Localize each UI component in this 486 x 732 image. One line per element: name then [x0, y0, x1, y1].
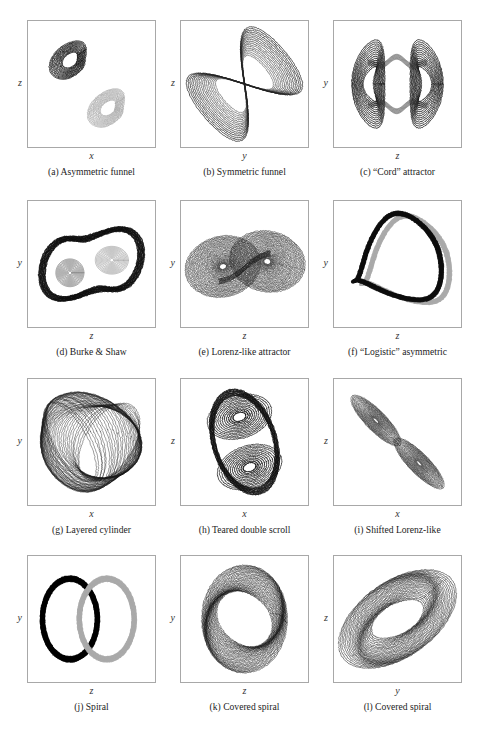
- axis-label-x-a: x: [27, 150, 156, 161]
- plot-panel-d: [27, 200, 156, 328]
- attractor-trace-f: [334, 201, 461, 327]
- attractor-trace-i: [334, 379, 461, 505]
- axis-label-y-k: y: [161, 612, 175, 623]
- axis-label-x-k: z: [180, 685, 309, 696]
- attractor-trace-j: [28, 556, 155, 682]
- plot-panel-b: [180, 20, 309, 148]
- panel-caption-c: (c) “Cord” attractor: [311, 166, 484, 177]
- axis-label-x-d: z: [27, 330, 156, 341]
- panel-caption-j: (j) Spiral: [5, 701, 178, 712]
- axis-label-x-l: y: [333, 685, 462, 696]
- axis-label-x-j: z: [27, 685, 156, 696]
- axis-label-y-d: y: [8, 257, 22, 268]
- plot-panel-g: [27, 378, 156, 506]
- panel-caption-l: (l) Covered spiral: [311, 701, 484, 712]
- plot-panel-j: [27, 555, 156, 683]
- attractor-trace-c: [334, 21, 461, 147]
- plot-panel-c: [333, 20, 462, 148]
- plot-panel-a: [27, 20, 156, 148]
- panel-caption-g: (g) Layered cylinder: [5, 524, 178, 535]
- panel-caption-b: (b) Symmetric funnel: [158, 166, 331, 177]
- plot-panel-i: [333, 378, 462, 506]
- axis-label-y-i: z: [314, 435, 328, 446]
- axis-label-y-e: y: [161, 257, 175, 268]
- axis-label-y-a: z: [8, 77, 22, 88]
- plot-panel-e: [180, 200, 309, 328]
- attractor-trace-k: [181, 556, 308, 682]
- attractor-trace-g: [28, 379, 155, 505]
- axis-label-y-f: y: [314, 257, 328, 268]
- plot-panel-f: [333, 200, 462, 328]
- panel-caption-f: (f) “Logistic” asymmetric: [311, 346, 484, 357]
- attractor-trace-l: [334, 556, 461, 682]
- axis-label-x-b: y: [180, 150, 309, 161]
- attractor-trace-h: [181, 379, 308, 505]
- axis-label-y-l: z: [314, 612, 328, 623]
- plot-panel-l: [333, 555, 462, 683]
- axis-label-y-g: y: [8, 435, 22, 446]
- panel-caption-h: (h) Teared double scroll: [158, 524, 331, 535]
- panel-caption-a: (a) Asymmetric funnel: [5, 166, 178, 177]
- axis-label-x-f: z: [333, 330, 462, 341]
- figure-panel-grid: zx(a) Asymmetric funnelzy(b) Symmetric f…: [0, 0, 486, 732]
- axis-label-y-b: z: [161, 77, 175, 88]
- attractor-trace-b: [181, 21, 308, 147]
- attractor-trace-e: [181, 201, 308, 327]
- plot-panel-h: [180, 378, 309, 506]
- axis-label-x-i: x: [333, 508, 462, 519]
- panel-caption-k: (k) Covered spiral: [158, 701, 331, 712]
- attractor-trace-a: [28, 21, 155, 147]
- axis-label-y-j: y: [8, 612, 22, 623]
- plot-panel-k: [180, 555, 309, 683]
- axis-label-x-g: x: [27, 508, 156, 519]
- axis-label-x-e: z: [180, 330, 309, 341]
- attractor-trace-d: [28, 201, 155, 327]
- panel-caption-i: (i) Shifted Lorenz-like: [311, 524, 484, 535]
- figure-footer-note: [0, 722, 486, 732]
- axis-label-x-h: x: [180, 508, 309, 519]
- panel-caption-e: (e) Lorenz-like attractor: [158, 346, 331, 357]
- axis-label-y-h: z: [161, 435, 175, 446]
- axis-label-y-c: y: [314, 77, 328, 88]
- axis-label-x-c: z: [333, 150, 462, 161]
- panel-caption-d: (d) Burke & Shaw: [5, 346, 178, 357]
